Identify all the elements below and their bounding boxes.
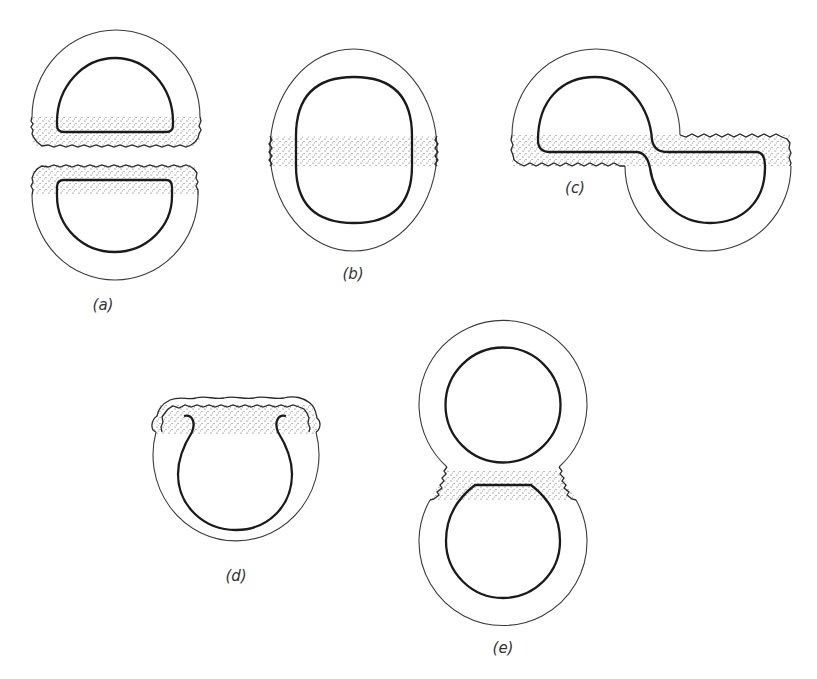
stippled-band — [153, 405, 318, 435]
panel-a-upper-half — [31, 30, 201, 147]
outer-membrane — [32, 195, 198, 280]
outer-membrane-lower — [625, 166, 791, 251]
panel-a-lower-half — [31, 165, 198, 280]
outer-membrane-lower — [419, 500, 587, 626]
panel-label-e: (e) — [493, 639, 514, 657]
panel-label-b: (b) — [342, 265, 363, 283]
panel-label-a: (a) — [93, 296, 114, 314]
panel-label-c: (c) — [565, 179, 585, 197]
outer-membrane — [32, 30, 200, 117]
panel-c — [511, 49, 791, 251]
panel-label-d: (d) — [225, 567, 246, 585]
diagram-canvas — [0, 0, 817, 679]
outer-membrane — [153, 432, 319, 541]
outer-membrane-upper — [419, 320, 587, 467]
panel-b — [269, 49, 438, 251]
panel-a — [31, 30, 201, 280]
inner-membrane-upper — [446, 348, 561, 463]
panel-e — [419, 320, 587, 625]
panel-d — [152, 397, 320, 541]
outer-membrane-upper — [512, 49, 680, 135]
inner-membrane-lower — [446, 485, 560, 598]
